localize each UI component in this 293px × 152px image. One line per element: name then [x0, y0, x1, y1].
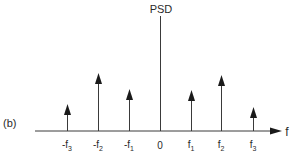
impulse-label: f1 — [188, 139, 195, 152]
panel-label: (b) — [3, 117, 16, 129]
impulse-arrow-icon — [218, 75, 225, 86]
impulse-label: -f2 — [93, 139, 103, 152]
impulse: f1 — [188, 90, 195, 152]
axis-arrow-icon — [270, 128, 282, 135]
impulse: f3 — [250, 107, 257, 152]
impulse-label: f2 — [218, 139, 225, 152]
psd-label: PSD — [150, 3, 173, 15]
impulse-arrow-icon — [188, 90, 195, 101]
impulse-arrow-icon — [64, 104, 71, 115]
impulse-label: -f3 — [62, 139, 72, 152]
f-axis-label: f — [285, 125, 289, 139]
origin-label: 0 — [157, 140, 163, 151]
impulse: -f1 — [124, 89, 134, 152]
impulse-label: f3 — [250, 139, 257, 152]
impulse-arrow-icon — [250, 107, 257, 118]
impulse-arrow-icon — [95, 73, 102, 84]
psd-diagram: PSD f (b) 0 -f3-f2-f1f1f2f3 — [0, 0, 293, 152]
impulse: f2 — [218, 75, 225, 152]
impulse: -f2 — [93, 73, 103, 152]
impulse-arrow-icon — [126, 89, 133, 100]
impulse-label: -f1 — [124, 139, 134, 152]
impulse: -f3 — [62, 104, 72, 152]
